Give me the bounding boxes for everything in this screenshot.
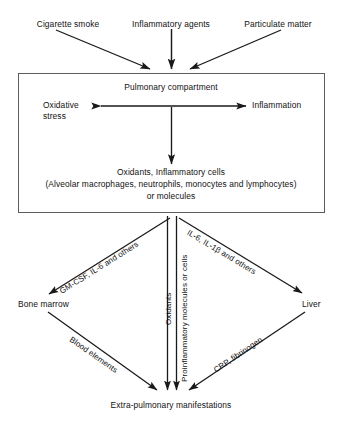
label-bone-marrow: Bone marrow xyxy=(18,299,69,310)
label-inflammatory-agents: Inflammatory agents xyxy=(132,19,210,30)
label-cigarette-smoke: Cigarette smoke xyxy=(37,19,99,30)
label-oxidative-stress-line2: stress xyxy=(43,111,66,122)
arrow-layer xyxy=(0,0,342,430)
arrow-cigarette-smoke xyxy=(56,30,150,69)
label-inflammation: Inflammation xyxy=(252,100,301,111)
label-extra-pulmonary-manifestations: Extra-pulmonary manifestations xyxy=(111,400,232,411)
label-pulmonary-compartment: Pulmonary compartment xyxy=(124,82,217,93)
label-liver: Liver xyxy=(302,299,321,310)
arrow-particulate-matter xyxy=(190,30,281,69)
arrow-to-liver xyxy=(179,218,302,293)
label-oxidative-stress-line1: Oxidative xyxy=(43,100,79,111)
label-oxidants-vertical: Oxidants xyxy=(164,293,175,325)
arrow-blood-elements xyxy=(48,312,157,390)
label-oxidants-inflammatory-cells: Oxidants, Inflammatory cells xyxy=(117,167,225,178)
diagram-canvas: Cigarette smoke Inflammatory agents Part… xyxy=(0,0,342,430)
label-or-molecules: or molecules xyxy=(147,191,196,202)
label-cell-types: (Alveolar macrophages, neutrophils, mono… xyxy=(45,179,296,190)
label-proinflammatory-vertical: Proinflammatory molecules or cells xyxy=(180,255,191,382)
label-particulate-matter: Particulate matter xyxy=(244,19,311,30)
